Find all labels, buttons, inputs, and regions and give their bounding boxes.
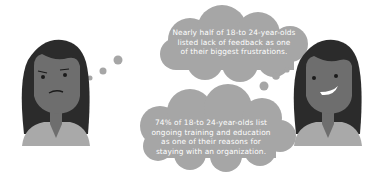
woman-left-frustrated [22, 40, 90, 146]
bubble-top-line: Nearly half of 18-to 24-year-olds [160, 28, 308, 38]
bubble-top-line: listed lack of feedback as one [160, 38, 308, 48]
bubble-bottom-line: staying with an organization. [136, 147, 286, 157]
bubble-bottom-line: ongoing training and education [136, 128, 286, 138]
bubble-bottom-line: as one of their reasons for [136, 137, 286, 147]
bubble-top-text: Nearly half of 18-to 24-year-olds listed… [160, 28, 308, 57]
infographic-scene: Nearly half of 18-to 24-year-olds listed… [0, 0, 385, 176]
bubble-top-line: of their biggest frustrations. [160, 47, 308, 57]
bubble-bottom-text: 74% of 18-to 24-year-olds list ongoing t… [136, 118, 286, 156]
bubble-bottom-line: 74% of 18-to 24-year-olds list [136, 118, 286, 128]
